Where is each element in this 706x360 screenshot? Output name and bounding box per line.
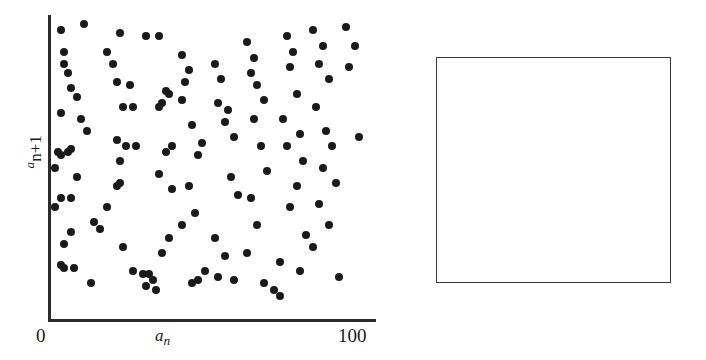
scatter-point bbox=[181, 78, 189, 86]
x-axis-label-a: a bbox=[155, 326, 164, 345]
scatter-point bbox=[188, 279, 196, 287]
scatter-point bbox=[286, 203, 294, 211]
scatter-point bbox=[142, 282, 150, 290]
scatter-point bbox=[165, 90, 173, 98]
scatter-point bbox=[67, 228, 75, 236]
scatter-point bbox=[276, 292, 284, 300]
scatter-point bbox=[296, 267, 304, 275]
scatter-point bbox=[96, 225, 104, 233]
scatter-point bbox=[77, 115, 85, 123]
scatter-point bbox=[67, 84, 75, 92]
scatter-point bbox=[80, 20, 88, 28]
scatter-point bbox=[188, 121, 196, 129]
scatter-point bbox=[116, 157, 124, 165]
scatter-point bbox=[312, 103, 320, 111]
scatter-point bbox=[214, 99, 222, 107]
scatter-plot-area bbox=[48, 15, 375, 320]
scatter-point bbox=[194, 151, 202, 159]
scatter-point bbox=[234, 191, 242, 199]
scatter-point bbox=[315, 200, 323, 208]
scatter-point bbox=[83, 127, 91, 135]
scatter-point bbox=[155, 103, 163, 111]
scatter-point bbox=[60, 240, 68, 248]
scatter-point bbox=[227, 173, 235, 181]
scatter-point bbox=[198, 139, 206, 147]
scatter-point bbox=[309, 26, 317, 34]
x-axis-tick-max: 100 bbox=[338, 325, 367, 347]
scatter-point bbox=[87, 279, 95, 287]
scatter-point bbox=[211, 234, 219, 242]
scatter-point bbox=[57, 194, 65, 202]
scatter-point bbox=[260, 279, 268, 287]
scatter-point bbox=[351, 42, 359, 50]
scatter-point bbox=[67, 145, 75, 153]
scatter-point bbox=[253, 221, 261, 229]
x-axis-tick-min: 0 bbox=[36, 325, 46, 347]
scatter-point bbox=[260, 96, 268, 104]
scatter-point bbox=[230, 133, 238, 141]
scatter-point bbox=[302, 231, 310, 239]
scatter-point bbox=[149, 276, 157, 284]
scatter-point bbox=[103, 203, 111, 211]
scatter-point bbox=[325, 221, 333, 229]
scatter-point bbox=[158, 249, 166, 257]
scatter-point bbox=[129, 103, 137, 111]
scatter-point bbox=[355, 133, 363, 141]
x-axis-label-sub: n bbox=[164, 333, 171, 348]
scatter-point bbox=[178, 51, 186, 59]
scatter-point bbox=[325, 75, 333, 83]
y-axis-label-a: a bbox=[22, 162, 37, 169]
grid-highlight-box bbox=[436, 57, 671, 283]
scatter-point bbox=[116, 29, 124, 37]
scatter-point bbox=[283, 142, 291, 150]
scatter-point bbox=[250, 54, 258, 62]
scatter-point bbox=[73, 93, 81, 101]
scatter-point bbox=[119, 243, 127, 251]
scatter-point bbox=[60, 60, 68, 68]
x-axis-label: an bbox=[155, 326, 170, 349]
scatter-point bbox=[155, 32, 163, 40]
scatter-point bbox=[319, 164, 327, 172]
scatter-point bbox=[70, 264, 78, 272]
scatter-point bbox=[132, 142, 140, 150]
scatter-point bbox=[299, 157, 307, 165]
scatter-point bbox=[109, 60, 117, 68]
scatter-plot-panel: an+1 an 0 100 bbox=[0, 0, 400, 360]
scatter-point bbox=[214, 273, 222, 281]
scatter-point bbox=[67, 194, 75, 202]
scatter-point bbox=[247, 194, 255, 202]
scatter-point bbox=[257, 142, 265, 150]
scatter-point bbox=[178, 221, 186, 229]
scatter-point bbox=[122, 142, 130, 150]
scatter-point bbox=[185, 66, 193, 74]
scatter-point bbox=[279, 115, 287, 123]
scatter-point bbox=[60, 264, 68, 272]
scatter-point bbox=[57, 26, 65, 34]
scatter-point bbox=[224, 106, 232, 114]
scatter-point bbox=[113, 182, 121, 190]
scatter-point bbox=[230, 276, 238, 284]
scatter-point bbox=[243, 249, 251, 257]
scatter-point bbox=[113, 78, 121, 86]
scatter-point bbox=[217, 75, 225, 83]
scatter-point bbox=[263, 167, 271, 175]
scatter-point bbox=[296, 130, 304, 138]
scatter-point bbox=[201, 267, 209, 275]
scatter-point bbox=[191, 209, 199, 217]
scatter-point bbox=[73, 173, 81, 181]
scatter-point bbox=[286, 63, 294, 71]
scatter-point bbox=[119, 103, 127, 111]
scatter-point bbox=[250, 115, 258, 123]
scatter-point bbox=[289, 48, 297, 56]
scatter-point bbox=[315, 60, 323, 68]
scatter-point bbox=[168, 185, 176, 193]
scatter-point bbox=[185, 182, 193, 190]
scatter-point bbox=[247, 69, 255, 77]
scatter-point bbox=[253, 81, 261, 89]
scatter-point bbox=[142, 32, 150, 40]
scatter-point bbox=[283, 32, 291, 40]
scatter-point bbox=[51, 164, 59, 172]
scatter-point bbox=[345, 63, 353, 71]
scatter-point bbox=[51, 203, 59, 211]
scatter-point bbox=[155, 170, 163, 178]
